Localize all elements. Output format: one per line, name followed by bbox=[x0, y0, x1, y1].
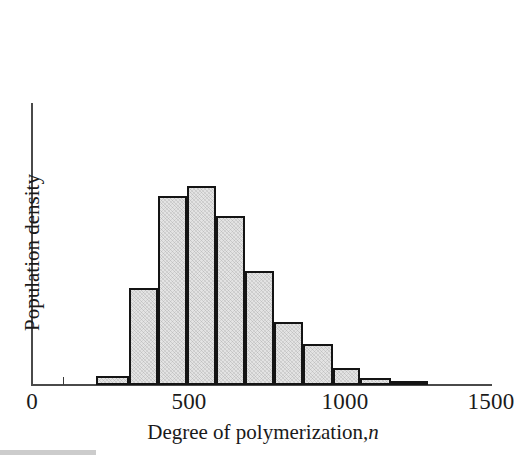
page-edge-artifact bbox=[0, 450, 96, 455]
x-axis-title: Degree of polymerization,n bbox=[0, 420, 526, 445]
x-tick-label-1000: 1000 bbox=[306, 389, 384, 415]
y-axis-title: Population density bbox=[20, 113, 45, 393]
x-tick-label-0: 0 bbox=[14, 389, 50, 415]
histogram-bar bbox=[96, 376, 128, 385]
x-tick-label-1500: 1500 bbox=[452, 389, 526, 415]
x-axis-title-text: Degree of polymerization, bbox=[147, 420, 368, 444]
x-tick-label-500: 500 bbox=[159, 389, 219, 415]
histogram-bar bbox=[391, 381, 428, 385]
histogram-bar bbox=[333, 368, 361, 385]
histogram-bar bbox=[274, 322, 303, 385]
histogram-figure: 0 500 1000 1500 Degree of polymerization… bbox=[0, 0, 526, 455]
histogram-bar bbox=[216, 216, 245, 385]
histogram-bar bbox=[245, 271, 274, 385]
histogram-bar bbox=[360, 378, 391, 385]
histogram-bar bbox=[129, 288, 158, 385]
plot-area bbox=[32, 103, 492, 385]
histogram-bar bbox=[303, 344, 332, 385]
histogram-bar bbox=[158, 196, 187, 385]
x-axis-title-symbol: n bbox=[368, 420, 379, 444]
histogram-bar bbox=[187, 186, 216, 385]
